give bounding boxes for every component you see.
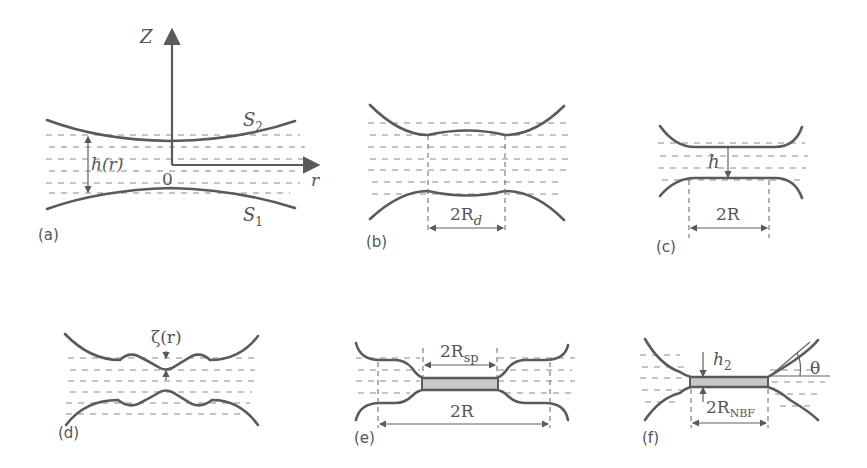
thickness-label: h(r) xyxy=(91,154,123,174)
tangent-line xyxy=(770,342,810,376)
panel-e: 2Rsp 2R (e) xyxy=(354,341,575,447)
panel-a: Z r 0 h(r) S2 S1 (a) xyxy=(38,26,320,244)
inner-dimension-label: 2Rsp xyxy=(440,341,479,365)
s1-label: S1 xyxy=(243,204,263,229)
thickness-label: h2 xyxy=(713,349,732,373)
panel-label-a: (a) xyxy=(38,226,59,244)
panel-label-e: (e) xyxy=(354,429,375,447)
thickness-label: h xyxy=(708,151,720,172)
surface-bottom-perturbed xyxy=(66,391,258,426)
dimension-label: 2RNBF xyxy=(706,397,755,420)
surface-bottom xyxy=(660,178,802,198)
s2-label: S2 xyxy=(243,109,263,134)
surface-top xyxy=(660,126,802,147)
panel-c: h 2R (c) xyxy=(656,126,808,256)
panel-label-c: (c) xyxy=(656,238,676,256)
thin-film-region xyxy=(422,378,498,390)
liquid-dashes xyxy=(658,143,808,180)
thin-film-diagram: Z r 0 h(r) S2 S1 (a) 2Rd (b) xyxy=(0,0,867,468)
angle-label: θ xyxy=(810,358,820,378)
panel-b: 2Rd (b) xyxy=(366,105,570,251)
panel-label-d: (d) xyxy=(58,424,79,442)
dimension-label: 2R xyxy=(716,204,741,224)
r-axis-label: r xyxy=(311,170,320,190)
liquid-dashes xyxy=(368,123,570,194)
panel-label-f: (f) xyxy=(642,429,659,447)
origin-label: 0 xyxy=(162,169,173,189)
surface-top xyxy=(370,105,564,135)
panel-f: θ h2 2RNBF (f) xyxy=(640,339,830,447)
dimension-label: 2Rd xyxy=(450,204,482,228)
panel-label-b: (b) xyxy=(366,233,387,251)
newton-black-film xyxy=(690,377,768,387)
liquid-dashes xyxy=(66,358,255,414)
surface-s1 xyxy=(47,188,295,209)
outer-dimension-label: 2R xyxy=(450,401,475,421)
panel-d: ζ(r) (d) xyxy=(58,327,258,442)
perturbation-label: ζ(r) xyxy=(151,327,182,347)
z-axis-label: Z xyxy=(139,26,153,47)
